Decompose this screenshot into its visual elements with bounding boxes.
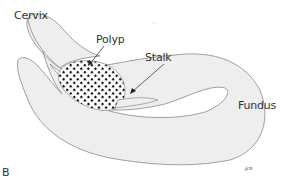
uterus-polyp-diagram	[0, 0, 283, 183]
artist-signature: jcn	[245, 166, 253, 171]
cervix-lip	[28, 14, 100, 68]
label-cervix: Cervix	[14, 10, 48, 21]
panel-letter: B	[2, 167, 10, 178]
label-stalk: Stalk	[145, 52, 171, 63]
label-polyp: Polyp	[96, 34, 125, 45]
label-fundus: Fundus	[238, 100, 276, 111]
